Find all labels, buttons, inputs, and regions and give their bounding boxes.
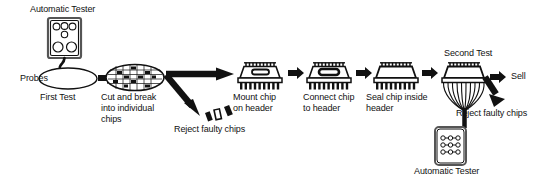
label-second-test: Second Test [444,48,492,59]
label-first-test: First Test [40,92,75,103]
header-pins [376,83,415,90]
label-automatic-tester-bottom: Automatic Tester [414,166,479,177]
label-probes: Probes [20,73,48,84]
tester-indicator [456,136,460,140]
tester-indicator [61,23,68,30]
flow-diagram-graphics [0,0,560,184]
label-seal-chip: Seal chip inside header [366,92,427,114]
label-mount-chip: Mount chip on header [233,92,276,114]
arrow-cut-to-mount [166,68,234,81]
automatic-tester-bottom-device [435,127,466,165]
label-cut-and-break: Cut and break into individual chips [101,92,156,125]
arrow-cut-to-reject-1 [166,75,200,116]
label-sell: Sell [511,71,526,82]
tester-indicator [61,31,67,37]
tester-indicator [448,136,452,140]
probe-wire-bundle [443,83,484,111]
rejected-chips-group-1 [205,105,233,122]
tester-indicator [448,150,452,154]
tester-indicator-grid [441,136,460,154]
chip-die-bonded [319,69,339,75]
diagram-canvas: Automatic Tester Probes First Test Cut a… [0,0,560,184]
label-reject-faulty-chips-2: Reject faulty chips [456,108,527,119]
label-reject-faulty-chips-1: Reject faulty chips [174,124,245,135]
header-pins [309,83,348,90]
automatic-tester-top-device [48,18,81,58]
header-pins [240,83,279,90]
tester-indicator [441,136,445,140]
arrow-second-test-to-reject-2 [485,77,505,107]
tester-indicator [448,143,452,147]
tester-indicator [456,143,460,147]
arrow-mount-to-connect [288,67,304,79]
stage-mount-chip-header [238,63,282,90]
label-automatic-tester-top: Automatic Tester [30,4,95,15]
tester-indicator [69,23,76,30]
stage-cut-and-break-wafer [106,65,164,91]
tester-indicator [441,143,445,147]
stage-seal-chip-header [374,63,418,90]
tester-indicator [67,42,77,52]
chip-die [252,70,269,75]
stage-connect-chip-header [307,63,351,90]
arrow-second-test-to-sell [490,71,506,83]
tester-indicator [456,150,460,154]
tester-indicator [53,42,63,52]
arrow-seal-to-second-test [422,67,438,79]
label-connect-chip: Connect chip to header [303,92,354,114]
tester-indicator [53,23,60,30]
arrow-connect-to-seal [356,67,372,79]
tester-indicator [441,150,445,154]
